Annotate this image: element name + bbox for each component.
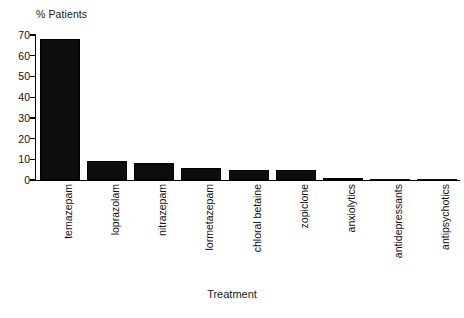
bar: [40, 39, 80, 180]
bar: [276, 170, 316, 180]
y-axis-tick-label: 10: [2, 154, 30, 165]
x-axis-tick-label: zopiclone: [299, 184, 310, 228]
plot-area: [36, 35, 460, 180]
bar: [323, 178, 363, 180]
bar: [417, 179, 457, 180]
x-axis-line: [35, 180, 460, 181]
bar: [229, 170, 269, 180]
x-axis-tick-label: antipsychotics: [440, 184, 451, 250]
y-axis-title: % Patients: [36, 8, 87, 20]
bar-chart: % Patients 010203040506070 temazepamlopr…: [0, 0, 464, 318]
bar: [181, 168, 221, 180]
x-axis-tick-label: chloral betaine: [252, 184, 263, 252]
x-axis-tick-label: lormetazepam: [204, 184, 215, 251]
x-axis-tick-label: anxiolytics: [346, 184, 357, 232]
x-axis-tick-label: antidepressants: [393, 184, 404, 258]
bar: [134, 163, 174, 180]
x-axis-tick-label: nitrazepam: [157, 184, 168, 236]
y-axis-tick-label: 40: [2, 92, 30, 103]
x-axis-title: Treatment: [0, 288, 464, 300]
bar: [87, 161, 127, 180]
y-axis-tick-label: 0: [2, 175, 30, 186]
x-axis-tick-label: loprazolam: [110, 184, 121, 235]
bar: [370, 179, 410, 180]
y-axis-tick-label: 50: [2, 71, 30, 82]
y-axis-tick-label: 70: [2, 30, 30, 41]
y-axis-tick-label: 30: [2, 113, 30, 124]
y-axis-tick-label: 20: [2, 133, 30, 144]
y-axis-tick-label: 60: [2, 50, 30, 61]
x-axis-tick-label: temazepam: [63, 184, 74, 239]
